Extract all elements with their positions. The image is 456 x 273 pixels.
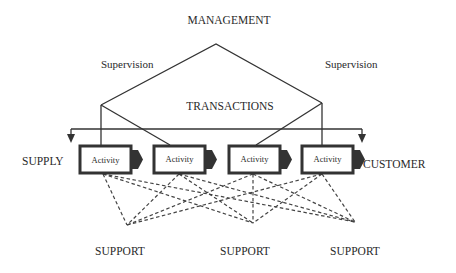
activity-box-2: Activity	[154, 146, 217, 173]
supply-label: SUPPLY	[22, 155, 64, 167]
transactions-flow-line	[67, 129, 366, 143]
chevron-right-icon	[206, 150, 217, 169]
activity-label: Activity	[92, 155, 121, 165]
activity-label: Activity	[241, 154, 270, 164]
activity-box-3: Activity	[229, 146, 292, 173]
activity-box-1: Activity	[80, 146, 143, 173]
arrow-down-left-icon	[67, 134, 75, 143]
activity-box-4: Activity	[302, 146, 365, 173]
customer-label: CUSTOMER	[363, 158, 426, 170]
support-label-3: SUPPORT	[330, 245, 380, 257]
management-label: MANAGEMENT	[187, 14, 270, 26]
support-label-1: SUPPORT	[95, 245, 145, 257]
chevron-right-icon	[132, 150, 143, 169]
arrow-down-right-icon	[358, 134, 366, 143]
chevron-right-icon	[281, 150, 292, 169]
support-label-2: SUPPORT	[220, 245, 270, 257]
supervision-right-label: Supervision	[325, 58, 378, 70]
supervision-left-label: Supervision	[101, 58, 154, 70]
value-chain-diagram: Activity Activity Activity Activity MANA…	[0, 0, 456, 273]
support-dashed-lines	[103, 174, 355, 225]
activity-label: Activity	[166, 154, 195, 164]
transactions-label: TRANSACTIONS	[186, 100, 274, 112]
activity-label: Activity	[314, 154, 343, 164]
